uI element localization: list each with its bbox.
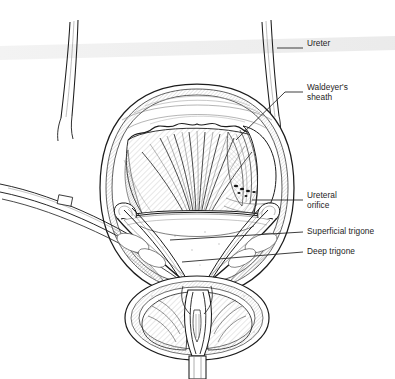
prostate — [125, 276, 269, 360]
label-ureteral-orifice-line2: orifice — [307, 200, 329, 210]
label-superficial-trigone: Superficial trigone — [307, 226, 374, 236]
label-deep-trigone: Deep trigone — [307, 246, 355, 256]
label-waldeyers-sheath: Waldeyer's sheath — [307, 82, 371, 102]
label-waldeyers-sheath-line1: Waldeyer's — [307, 82, 348, 92]
distal-urethra — [189, 356, 206, 379]
label-ureteral-orifice-line1: Ureteral — [307, 190, 337, 200]
label-ureter: Ureter — [307, 38, 330, 48]
label-waldeyers-sheath-line2: sheath — [307, 92, 332, 102]
label-ureteral-orifice: Ureteral orifice — [307, 190, 371, 210]
